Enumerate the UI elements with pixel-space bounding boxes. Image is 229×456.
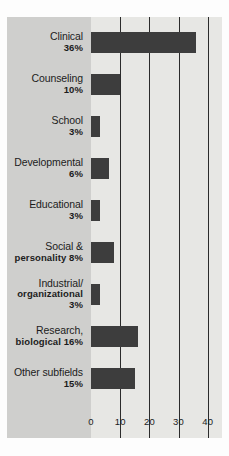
category-percentage: 6% — [69, 169, 83, 180]
bar-category-label: School3% — [7, 105, 87, 147]
category-name: Other subfields — [14, 367, 83, 379]
category-percentage: 15% — [64, 379, 83, 390]
bar-row: School3% — [7, 105, 222, 147]
x-tick-label: 10 — [115, 416, 126, 427]
bar-row: Educational3% — [7, 189, 222, 231]
bar-category-label: Counseling10% — [7, 63, 87, 105]
x-tick-label: 20 — [144, 416, 155, 427]
bar-category-label: Clinical36% — [7, 21, 87, 63]
category-name: Social & — [45, 241, 83, 253]
bar-category-label: Other subfields15% — [7, 357, 87, 399]
category-name: Developmental — [14, 157, 83, 169]
category-percentage: organizational 3% — [7, 289, 83, 310]
category-name: Research, — [36, 325, 83, 337]
bar — [91, 284, 100, 305]
bar-row: Social &personality 8% — [7, 231, 222, 273]
bar-category-label: Developmental6% — [7, 147, 87, 189]
x-tick-label: 0 — [88, 416, 93, 427]
bar — [91, 368, 135, 389]
bar-rows: Clinical36%Counseling10%School3%Developm… — [7, 17, 222, 438]
category-name: Clinical — [50, 31, 83, 43]
bar-row: Clinical36% — [7, 21, 222, 63]
bar — [91, 200, 100, 221]
bar-row: Industrial/organizational 3% — [7, 273, 222, 315]
category-name: Counseling — [31, 73, 83, 85]
bar — [91, 74, 120, 95]
bar — [91, 242, 114, 263]
category-name: Educational — [29, 199, 83, 211]
bar-row: Other subfields15% — [7, 357, 222, 399]
category-percentage: 3% — [69, 211, 83, 222]
bar-category-label: Social &personality 8% — [7, 231, 87, 273]
category-percentage: personality 8% — [15, 253, 83, 264]
bar — [91, 326, 138, 347]
category-percentage: 36% — [64, 43, 83, 54]
bar — [91, 116, 100, 137]
bar-category-label: Educational3% — [7, 189, 87, 231]
x-tick-label: 40 — [202, 416, 213, 427]
bar-row: Developmental6% — [7, 147, 222, 189]
category-percentage: 3% — [69, 127, 83, 138]
category-name: School — [51, 115, 83, 127]
chart-panel: Clinical36%Counseling10%School3%Developm… — [7, 17, 222, 438]
x-axis: 010203040 — [7, 416, 222, 438]
x-tick-label: 30 — [173, 416, 184, 427]
bar — [91, 32, 196, 53]
bar-category-label: Industrial/organizational 3% — [7, 273, 87, 315]
bar-row: Research,biological 16% — [7, 315, 222, 357]
bar-row: Counseling10% — [7, 63, 222, 105]
category-percentage: 10% — [64, 85, 83, 96]
category-percentage: biological 16% — [16, 337, 83, 348]
bar-category-label: Research,biological 16% — [7, 315, 87, 357]
bar — [91, 158, 109, 179]
chart-figure: Clinical36%Counseling10%School3%Developm… — [0, 0, 229, 456]
